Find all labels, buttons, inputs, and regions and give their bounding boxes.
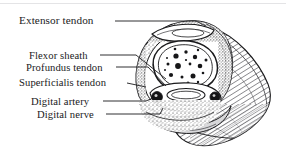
label-digital-nerve: Digital nerve [37,109,94,120]
label-digital-artery: Digital artery [31,96,89,107]
label-extensor-tendon: Extensor tendon [19,14,94,26]
anatomy-figure: Extensor tendon Flexor sheath Profundus … [0,0,286,165]
label-superficialis-tendon: Superficialis tendon [19,77,106,88]
label-profundus-tendon: Profundus tendon [26,62,103,73]
label-flexor-sheath: Flexor sheath [29,50,88,61]
